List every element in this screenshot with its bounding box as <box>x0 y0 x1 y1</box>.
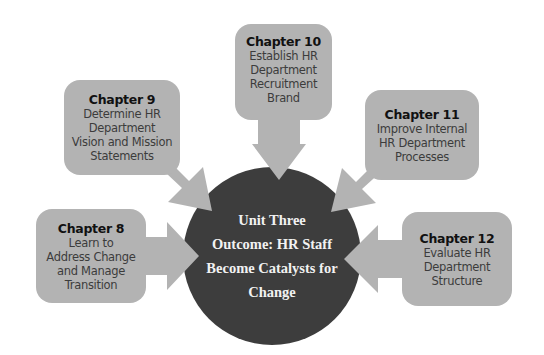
chapter-line: Address Change <box>46 250 135 264</box>
chapter-line: Structure <box>432 274 483 288</box>
chapter-line: Determine HR <box>83 107 161 121</box>
chapter-line: Vision and Mission <box>72 135 173 149</box>
chapter-9-card: Chapter 9 Determine HR Department Vision… <box>64 82 180 172</box>
center-line: Unit Three <box>206 208 337 232</box>
hub-spoke-diagram: Chapter 10 Establish HR Department Recru… <box>0 0 544 355</box>
chapter-title: Chapter 11 <box>385 107 460 122</box>
chapter-line: Recruitment <box>250 77 317 91</box>
center-line: Become Catalysts for <box>206 256 337 280</box>
chapter-line: Department <box>250 63 317 77</box>
chapter-title: Chapter 8 <box>58 221 124 236</box>
chapter-line: Improve Internal <box>377 122 467 136</box>
chapter-title: Chapter 10 <box>246 34 321 49</box>
chapter-line: Processes <box>395 150 449 164</box>
chapter-11-card: Chapter 11 Improve Internal HR Departmen… <box>365 90 479 180</box>
chapter-12-card: Chapter 12 Evaluate HR Department Struct… <box>402 212 512 306</box>
chapter-line: Department <box>89 121 156 135</box>
chapter-line: HR Department <box>379 136 465 150</box>
chapter-8-card: Chapter 8 Learn to Address Change and Ma… <box>36 209 146 303</box>
chapter-line: Evaluate HR <box>423 246 490 260</box>
center-line: Outcome: HR Staff <box>206 232 337 256</box>
chapter-line: and Manage <box>57 264 125 278</box>
chapter-title: Chapter 9 <box>89 92 155 107</box>
chapter-line: Learn to <box>69 236 114 250</box>
center-outcome: Unit Three Outcome: HR Staff Become Cata… <box>188 200 356 312</box>
chapter-title: Chapter 12 <box>420 231 495 246</box>
chapter-line: Statements <box>90 149 154 163</box>
chapter-line: Transition <box>65 278 118 292</box>
chapter-10-card: Chapter 10 Establish HR Department Recru… <box>235 24 332 114</box>
chapter-line: Brand <box>267 91 300 105</box>
center-line: Change <box>206 280 337 304</box>
chapter-line: Establish HR <box>249 49 317 63</box>
chapter-line: Department <box>424 260 491 274</box>
